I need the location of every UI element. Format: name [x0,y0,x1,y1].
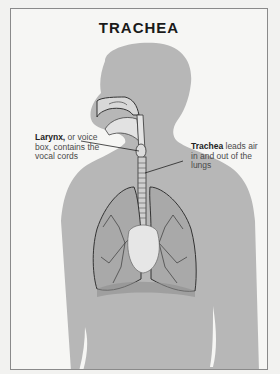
larynx-label: Larynx, or voice box, contains the vocal… [35,133,105,162]
trachea-term: Trachea [191,141,223,151]
larynx-term: Larynx, [35,132,65,142]
trachea-label: Trachea leads air in and out of the lung… [191,142,261,171]
diagram-frame: TRACHEA [10,8,268,370]
anatomy-figure [11,9,268,370]
